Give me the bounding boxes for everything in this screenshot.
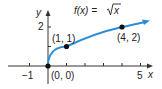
sqrt-function-graph: y x 2 −1 5 (0, 0) (1, 1) (4, 2) f(x) = x — [0, 0, 162, 89]
point-label-1-1: (1, 1) — [52, 33, 75, 44]
sqrt-curve — [48, 22, 145, 66]
point-origin — [45, 63, 50, 68]
x-axis-label: x — [147, 69, 154, 80]
y-axis-label: y — [35, 7, 42, 18]
x-tick-label-5: 5 — [137, 70, 143, 81]
point-4-2 — [119, 24, 124, 29]
x-tick-label-neg1: −1 — [22, 70, 34, 81]
y-tick-label-2: 2 — [38, 21, 44, 32]
y-axis-arrow-icon — [46, 10, 51, 16]
function-title: f(x) = — [74, 5, 97, 16]
point-label-origin: (0, 0) — [51, 70, 74, 81]
point-label-4-2: (4, 2) — [117, 32, 140, 43]
x-axis-arrow-icon — [147, 64, 153, 69]
sqrt-argument: x — [113, 5, 120, 16]
curve-arrow-icon — [142, 20, 150, 26]
point-1-1 — [64, 44, 69, 49]
